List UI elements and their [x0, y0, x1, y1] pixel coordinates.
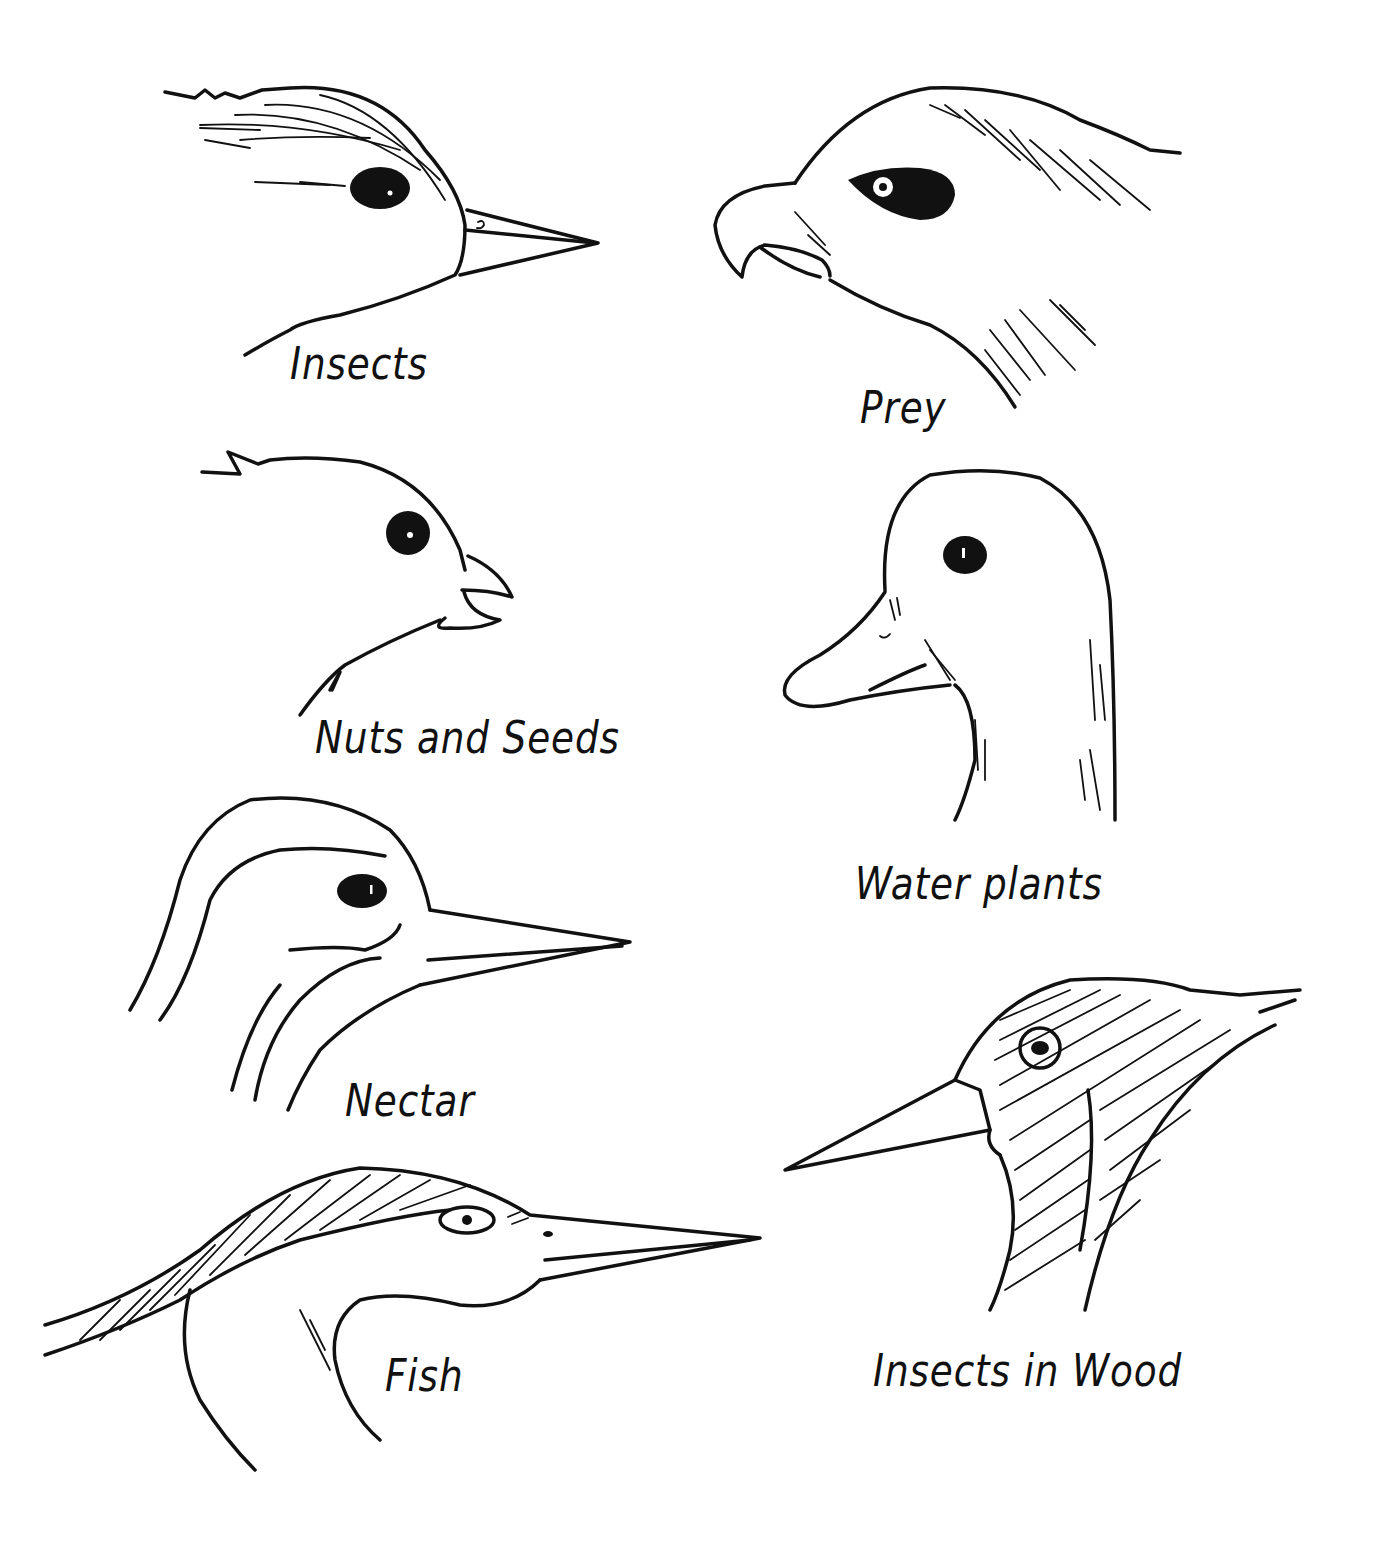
label-water-plants: Water plants: [855, 858, 1103, 909]
illustrations: [0, 0, 1375, 1545]
warbler-head-icon: [165, 88, 598, 355]
hummingbird-head-icon: [130, 798, 630, 1110]
label-insects-in-wood: Insects in Wood: [873, 1345, 1182, 1396]
label-insects: Insects: [290, 338, 428, 389]
label-nectar: Nectar: [345, 1075, 475, 1126]
label-fish: Fish: [385, 1350, 463, 1401]
woodpecker-head-icon: [785, 979, 1300, 1310]
heron-head-icon: [45, 1168, 760, 1470]
label-prey: Prey: [860, 382, 946, 433]
duck-head-icon: [784, 471, 1115, 820]
hawk-head-icon: [715, 88, 1180, 407]
finch-head-icon: [202, 452, 512, 715]
bird-beaks-diagram: Insects Prey Nuts and Seeds Water plants…: [0, 0, 1375, 1545]
label-nuts-and-seeds: Nuts and Seeds: [315, 712, 620, 763]
